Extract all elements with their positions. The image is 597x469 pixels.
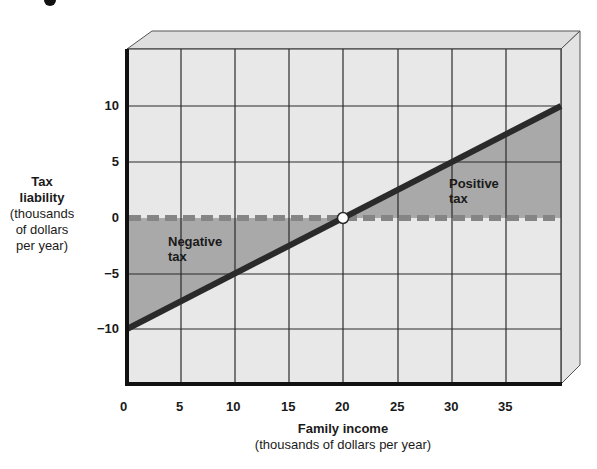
- y-tick-neg5: −5: [104, 266, 119, 281]
- positive-tax-label-line2: tax: [449, 191, 499, 206]
- x-axis-title: Family income: [243, 421, 443, 436]
- y-axis-title-line1: Tax: [2, 174, 82, 190]
- y-tick-10: 10: [105, 98, 119, 113]
- y-axis-subtitle-line1: (thousands: [2, 206, 82, 222]
- y-tick-neg10: −10: [97, 321, 119, 336]
- y-axis-subtitle-line2: of dollars: [2, 222, 82, 238]
- negative-tax-label-line2: tax: [168, 249, 222, 264]
- positive-tax-label: Positive tax: [449, 176, 499, 206]
- x-tick-35: 35: [498, 399, 512, 414]
- x-tick-5: 5: [176, 399, 183, 414]
- y-axis-title-line2: liability: [2, 190, 82, 206]
- negative-tax-label-line1: Negative: [168, 234, 222, 249]
- negative-tax-label: Negative tax: [168, 234, 222, 264]
- x-axis-subtitle: (thousands of dollars per year): [218, 437, 468, 452]
- x-tick-30: 30: [444, 399, 458, 414]
- x-tick-20: 20: [335, 399, 349, 414]
- positive-tax-label-line1: Positive: [449, 176, 499, 191]
- y-tick-5: 5: [112, 154, 119, 169]
- box-top-bevel: [127, 31, 580, 49]
- break-even-point: [338, 213, 349, 224]
- y-axis-title: Tax liability (thousands of dollars per …: [2, 174, 82, 254]
- x-tick-0: 0: [120, 399, 127, 414]
- box-right-bevel: [561, 31, 580, 384]
- x-tick-10: 10: [226, 399, 240, 414]
- x-tick-25: 25: [390, 399, 404, 414]
- y-tick-0: 0: [112, 210, 119, 225]
- x-tick-15: 15: [281, 399, 295, 414]
- y-axis-subtitle-line3: per year): [2, 238, 82, 254]
- corner-artifact: [44, 0, 56, 6]
